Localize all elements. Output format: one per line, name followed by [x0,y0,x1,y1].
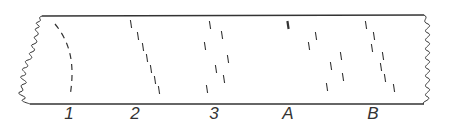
band-dash [340,52,341,60]
band-dash [371,44,372,52]
band-dash [382,52,383,60]
band-dash [221,31,222,39]
band-dash [227,55,228,63]
band-dash [380,63,381,71]
band-dash [215,65,216,73]
band-dash [223,75,224,83]
band-dash [384,74,385,82]
band-dash [209,21,210,29]
lane-label-b: B [367,104,378,124]
strip-top-edge [42,15,424,16]
lane-label-3: 3 [209,104,218,124]
band-dash [393,84,394,92]
band-dash [315,32,316,40]
band-dashes [130,20,394,94]
band-dash [150,65,151,73]
band-dash [365,21,366,29]
band-dash [206,85,207,93]
band-dash [287,21,288,29]
band-dash [330,62,331,70]
band-dash [342,73,343,81]
band-dash [130,20,131,28]
torn-left-edge [19,16,42,104]
band-dash [146,54,147,62]
lane-label-2: 2 [130,104,139,124]
band-dash [158,86,159,94]
band-dash [137,32,138,40]
band-dash [326,83,327,91]
band-dash [154,76,155,84]
torn-right-edge [423,15,429,104]
band-dash [308,42,309,50]
band-dash [204,42,205,50]
lane-label-1: 1 [64,104,73,124]
band-dash [373,32,374,40]
lane-label-a: A [282,104,293,124]
band-dash [142,43,143,51]
lane-1-arc [55,24,72,96]
